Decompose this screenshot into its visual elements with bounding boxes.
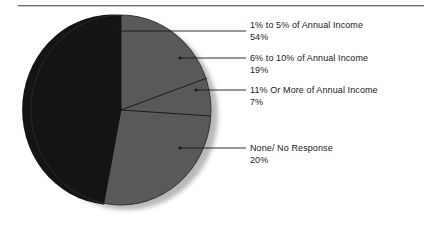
callout-value-11pct-or-more: 7%	[250, 96, 378, 108]
callout-label-1pct-to-5pct: 1% to 5% of Annual Income 54%	[250, 19, 363, 43]
callout-value-none-no-response: 20%	[250, 154, 333, 166]
chart-plot-area: 1% to 5% of Annual Income 54% 6% to 10% …	[0, 0, 424, 225]
callout-name-1pct-to-5pct: 1% to 5% of Annual Income	[250, 19, 363, 31]
callout-label-none-no-response: None/ No Response 20%	[250, 142, 333, 166]
callout-name-none-no-response: None/ No Response	[250, 142, 333, 154]
callout-label-6pct-to-10pct: 6% to 10% of Annual Income 19%	[250, 52, 368, 76]
callout-name-11pct-or-more: 11% Or More of Annual Income	[250, 84, 378, 96]
pie-slice-1pct-to-5pct	[22, 15, 121, 205]
pie-chart-figure: 1% to 5% of Annual Income 54% 6% to 10% …	[0, 0, 424, 225]
callout-label-11pct-or-more: 11% Or More of Annual Income 7%	[250, 84, 378, 108]
callout-value-1pct-to-5pct: 54%	[250, 31, 363, 43]
callout-name-6pct-to-10pct: 6% to 10% of Annual Income	[250, 52, 368, 64]
callout-value-6pct-to-10pct: 19%	[250, 64, 368, 76]
